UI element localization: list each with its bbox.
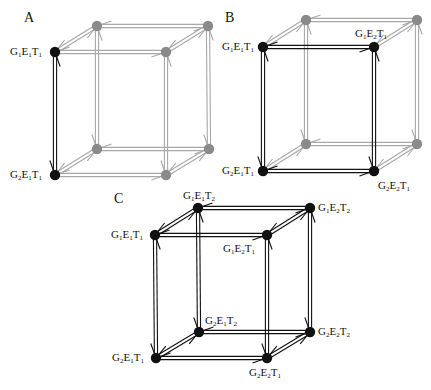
edge-btr-bbr [305,213,315,328]
edge-ftl-fbl [258,52,268,167]
node-bbl [194,327,204,337]
node-ftr [262,230,272,240]
node-btl [193,203,203,213]
edge-btl-btr [311,15,413,25]
edge-fbl-bbl [58,150,94,174]
edge-fbl-fbr [161,353,263,363]
panel-label-a: A [24,10,34,26]
edge-btr-bbr [204,30,213,144]
panel-label-c: C [114,191,123,207]
edge-ftl-ftr [60,47,162,57]
edge-ftl-btl [266,21,303,46]
cube-panel-b [258,15,422,176]
node-fbr [262,353,272,363]
node-label: G2E2T2 [318,326,350,339]
node-label: G2E1T1 [222,165,254,178]
edge-ftr-fbr [161,57,171,171]
node-ftr [161,47,171,57]
edge-bbl-bbr [204,327,306,337]
node-label: G2E1T2 [205,315,237,328]
edge-fbr-bbr [169,150,206,174]
node-btr [203,21,213,31]
edge-ftl-btl [158,209,195,234]
edge-fbl-fbr [268,166,370,176]
node-btl [92,21,102,31]
node-btr [305,203,315,213]
edge-btl-btr [203,203,306,213]
node-label: G1E2T2 [318,202,350,215]
node-fbl [50,170,60,180]
edge-ftr-fbr [369,52,379,167]
edge-btl-bbl [194,212,203,327]
node-ftr [369,42,379,52]
edge-btl-bbl [92,31,102,145]
node-bbl [301,139,311,149]
node-label: G1E2T1 [355,28,387,41]
edge-ftl-ftr [160,230,263,240]
edge-btl-bbl [301,25,311,140]
edge-fbl-fbr [60,170,162,180]
edge-fbr-bbr [377,145,414,170]
node-bbr [204,144,214,154]
node-btl [301,15,311,25]
node-label: G2E1T1 [10,169,42,182]
edge-fbl-bbl [266,145,303,170]
node-ftl [50,47,60,57]
edge-bbl-bbr [311,139,413,149]
node-label: G1E1T1 [111,229,143,242]
edge-ftl-btl [58,27,94,51]
node-bbl [92,144,102,154]
cube-panel-a [50,21,214,180]
edge-ftr-btr [270,209,307,234]
node-label: G2E2T1 [249,367,281,380]
cube-panel-c [150,203,315,363]
node-label: G1E1T2 [183,190,215,203]
node-label: G1E1T1 [10,46,42,59]
node-btr [412,15,422,25]
node-fbl [151,353,161,363]
node-label: G2E2T1 [378,180,410,193]
edge-ftl-fbl [50,57,60,171]
edge-ftl-ftr [268,42,370,52]
node-bbr [412,139,422,149]
cube-diagram [0,0,431,390]
edge-btl-btr [102,21,204,31]
node-fbr [369,166,379,176]
node-ftl [150,230,160,240]
edge-bbl-bbr [102,144,205,154]
edge-ftr-fbr [262,240,272,354]
edge-fbr-bbr [270,333,307,357]
node-label: G1E2T1 [223,243,255,256]
edge-ftr-btr [169,27,205,51]
node-bbr [305,327,315,337]
edge-ftl-fbl [151,239,160,353]
node-ftl [258,42,268,52]
edge-btr-bbr [412,25,422,140]
node-label: G2E1T1 [112,352,144,365]
edge-fbl-bbl [159,333,196,357]
node-fbl [258,166,268,176]
node-label: G1E1T1 [222,41,254,54]
node-fbr [161,170,171,180]
panel-label-b: B [225,10,234,26]
